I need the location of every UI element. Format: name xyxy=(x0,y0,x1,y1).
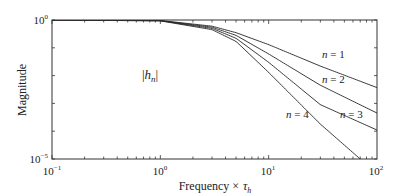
curve-n4 xyxy=(52,20,377,174)
curve-n2 xyxy=(52,20,377,113)
series-label-n4: n = 4 xyxy=(286,108,309,120)
x-tick-label-0: 10−1 xyxy=(43,164,62,177)
magnitude-chart: 100 10−5 10−1 100 101 102 Frequency ×τh … xyxy=(0,0,401,196)
y-tick-label-bottom: 10−5 xyxy=(30,152,49,165)
x-tick-label-3: 102 xyxy=(369,164,384,177)
x-tick-label-1: 100 xyxy=(153,164,168,177)
curves xyxy=(52,20,377,174)
transfer-function-annotation: |hn| xyxy=(142,67,158,84)
series-label-n2: n = 2 xyxy=(322,73,345,85)
y-axis-label: Magnitude xyxy=(15,64,29,116)
y-tick-label-top: 100 xyxy=(34,13,49,26)
x-tick-label-2: 101 xyxy=(261,164,276,177)
series-label-n3: n = 3 xyxy=(340,108,363,120)
x-axis-label: Frequency ×τh xyxy=(179,179,252,195)
series-label-n1: n = 1 xyxy=(322,48,345,60)
